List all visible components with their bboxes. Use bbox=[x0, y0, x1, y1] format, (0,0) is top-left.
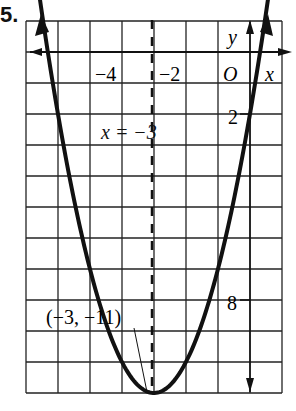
x-tick-neg2: −2 bbox=[159, 63, 180, 85]
y-axis-arrow-up bbox=[246, 20, 254, 34]
vertex-label: (−3, −11) bbox=[46, 306, 121, 329]
x-axis-arrow-left bbox=[30, 48, 42, 56]
symmetry-label: x = −3 bbox=[100, 121, 157, 143]
grid bbox=[26, 21, 282, 393]
y-axis-label: y bbox=[226, 26, 237, 49]
y-tick-neg2: 2 bbox=[228, 106, 238, 128]
origin-label: O bbox=[223, 63, 237, 85]
x-axis-arrow-right bbox=[278, 48, 292, 56]
curve-arrow-left bbox=[35, 14, 49, 36]
y-tick-neg8: 8 bbox=[227, 292, 237, 314]
x-axis-label: x bbox=[264, 63, 274, 85]
y-axis-arrow-down bbox=[246, 378, 254, 392]
x-tick-neg4: −4 bbox=[95, 63, 116, 85]
parabola-graph: −4 −2 O x y 2 8 x = −3 (−3, −11) bbox=[0, 0, 296, 411]
